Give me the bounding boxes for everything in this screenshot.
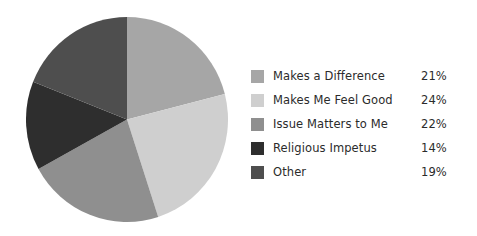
pie-chart-figure: Makes a Difference 21% Makes Me Feel Goo…: [0, 0, 477, 236]
pie-chart-graphic: [26, 17, 228, 222]
legend-item-issue-matters-to-me: Issue Matters to Me 22%: [251, 112, 461, 136]
legend-item-value: 21%: [421, 69, 461, 83]
pie-svg: [26, 17, 228, 222]
legend-item-label: Religious Impetus: [273, 141, 421, 155]
legend-item-value: 19%: [421, 165, 461, 179]
legend-item-label: Issue Matters to Me: [273, 117, 421, 131]
legend-swatch-icon: [251, 70, 264, 83]
legend-item-value: 22%: [421, 117, 461, 131]
legend-item-label: Makes Me Feel Good: [273, 93, 421, 107]
legend-item-makes-me-feel-good: Makes Me Feel Good 24%: [251, 88, 461, 112]
chart-legend: Makes a Difference 21% Makes Me Feel Goo…: [251, 64, 461, 184]
legend-swatch-icon: [251, 142, 264, 155]
pie-slice-group: [26, 17, 228, 222]
legend-swatch-icon: [251, 118, 264, 131]
legend-item-makes-a-difference: Makes a Difference 21%: [251, 64, 461, 88]
legend-item-other: Other 19%: [251, 160, 461, 184]
legend-item-label: Other: [273, 165, 421, 179]
legend-item-label: Makes a Difference: [273, 69, 421, 83]
legend-item-religious-impetus: Religious Impetus 14%: [251, 136, 461, 160]
legend-swatch-icon: [251, 166, 264, 179]
legend-item-value: 14%: [421, 141, 461, 155]
legend-swatch-icon: [251, 94, 264, 107]
legend-item-value: 24%: [421, 93, 461, 107]
